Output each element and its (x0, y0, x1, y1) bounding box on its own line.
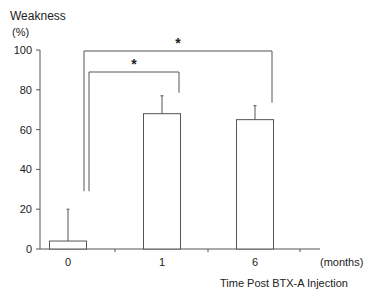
y-tick-label-0: 0 (26, 243, 32, 255)
y-axis-unit: (%) (12, 26, 29, 38)
y-tick-label-2: 40 (20, 163, 32, 175)
y-tick-label-1: 20 (20, 203, 32, 215)
bar-chart: Weakness (%) (months) Time Post BTX-A In… (0, 0, 369, 294)
x-tick-label-1: 1 (159, 256, 165, 268)
bar-0 (50, 241, 87, 249)
x-tick-label-0: 0 (65, 256, 71, 268)
bar-1 (144, 114, 181, 249)
y-axis-label: Weakness (10, 9, 66, 23)
y-tick-label-5: 100 (14, 44, 32, 56)
y-tick-label-4: 80 (20, 84, 32, 96)
significance-star-0: * (131, 56, 137, 72)
x-axis-label: Time Post BTX-A Injection (220, 277, 348, 289)
x-axis-unit: (months) (320, 256, 363, 268)
y-tick-label-3: 60 (20, 124, 32, 136)
significance-star-1: * (175, 35, 181, 51)
bar-6 (237, 120, 274, 249)
x-tick-label-6: 6 (252, 256, 258, 268)
